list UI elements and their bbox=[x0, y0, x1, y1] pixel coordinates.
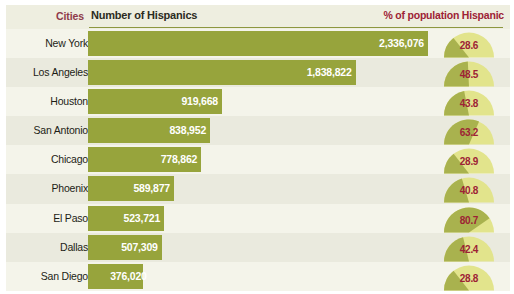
gauge-value-label: 63.2 bbox=[443, 127, 495, 138]
percent-gauge: 40.8 bbox=[443, 177, 495, 203]
bar-value-label: 507,309 bbox=[100, 241, 158, 253]
gauge-value-label: 40.8 bbox=[443, 185, 495, 196]
bar-value-label: 2,336,076 bbox=[366, 37, 424, 49]
bar-track: 2,336,076 bbox=[88, 31, 428, 56]
bar-track: 919,668 bbox=[88, 89, 428, 114]
table-row: Los Angeles1,838,82248.5 bbox=[6, 58, 510, 87]
bar-value-label: 376,020 bbox=[92, 270, 147, 282]
row-city-label: Los Angeles bbox=[33, 66, 88, 78]
infographic-page: Cities Number of Hispanics % of populati… bbox=[0, 0, 514, 294]
chart-rows: New York2,336,07628.6Los Angeles1,838,82… bbox=[6, 29, 510, 291]
percent-gauge: 42.4 bbox=[443, 236, 495, 262]
row-city-label: Phoenix bbox=[51, 182, 88, 194]
bar-track: 778,862 bbox=[88, 147, 428, 172]
bar-value-label: 589,877 bbox=[112, 182, 170, 194]
bar-value-label: 838,952 bbox=[148, 124, 206, 136]
header-divider bbox=[89, 27, 503, 28]
percent-gauge: 48.5 bbox=[443, 61, 495, 87]
bar-value-label: 523,721 bbox=[102, 212, 160, 224]
table-row: San Diego376,02028.8 bbox=[6, 262, 510, 291]
gauge-value-label: 28.6 bbox=[443, 40, 495, 51]
gauge-value-label: 42.4 bbox=[443, 244, 495, 255]
chart-panel: Cities Number of Hispanics % of populati… bbox=[6, 5, 510, 291]
gauge-value-label: 28.9 bbox=[443, 156, 495, 167]
row-city-label: Houston bbox=[50, 95, 88, 107]
gauge-value-label: 28.8 bbox=[443, 273, 495, 284]
chart-header: Cities Number of Hispanics % of populati… bbox=[6, 5, 510, 29]
percent-gauge: 43.8 bbox=[443, 90, 495, 116]
percent-gauge: 63.2 bbox=[443, 119, 495, 145]
bar-track: 376,020 bbox=[88, 264, 428, 289]
table-row: Dallas507,30942.4 bbox=[6, 233, 510, 262]
row-city-label: El Paso bbox=[53, 212, 88, 224]
bar-track: 838,952 bbox=[88, 118, 428, 143]
percent-gauge: 80.7 bbox=[443, 207, 495, 233]
table-row: El Paso523,72180.7 bbox=[6, 204, 510, 233]
bar-track: 523,721 bbox=[88, 206, 428, 231]
row-city-label: New York bbox=[45, 37, 88, 49]
percent-gauge: 28.9 bbox=[443, 148, 495, 174]
bar-value-label: 1,838,822 bbox=[294, 66, 352, 78]
row-city-label: Chicago bbox=[51, 153, 88, 165]
bar-track: 589,877 bbox=[88, 176, 428, 201]
table-row: San Antonio838,95263.2 bbox=[6, 116, 510, 145]
header-cities-label: Cities bbox=[56, 10, 84, 22]
gauge-value-label: 43.8 bbox=[443, 98, 495, 109]
table-row: Chicago778,86228.9 bbox=[6, 145, 510, 174]
table-row: Houston919,66843.8 bbox=[6, 87, 510, 116]
bar-track: 507,309 bbox=[88, 235, 428, 260]
table-row: New York2,336,07628.6 bbox=[6, 29, 510, 58]
header-percent-population-hispanic-label: % of population Hispanic bbox=[383, 9, 504, 21]
row-city-label: San Antonio bbox=[34, 124, 88, 136]
row-city-label: San Diego bbox=[41, 270, 88, 282]
gauge-value-label: 80.7 bbox=[443, 215, 495, 226]
bar-value-label: 778,862 bbox=[139, 153, 197, 165]
header-number-of-hispanics-label: Number of Hispanics bbox=[91, 9, 197, 21]
percent-gauge: 28.6 bbox=[443, 32, 495, 58]
percent-gauge: 28.8 bbox=[443, 265, 495, 291]
table-row: Phoenix589,87740.8 bbox=[6, 174, 510, 203]
row-city-label: Dallas bbox=[60, 241, 88, 253]
bar-value-label: 919,668 bbox=[160, 95, 218, 107]
gauge-value-label: 48.5 bbox=[443, 69, 495, 80]
bar-track: 1,838,822 bbox=[88, 60, 428, 85]
